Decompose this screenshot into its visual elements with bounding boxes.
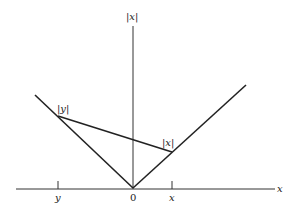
absolute-value-diagram: |x| x 0 y x |y| |x| [0,0,293,213]
origin-label: 0 [130,192,136,203]
point-label-abs-y: |y| [57,103,69,115]
abs-graph-left-branch [35,95,133,188]
y-axis-label: |x| [126,11,138,23]
tick-label-y: y [54,192,61,203]
point-label-abs-x: |x| [162,137,174,149]
x-axis-label: x [277,183,283,194]
abs-graph-right-branch [133,85,246,188]
tick-label-x: x [169,192,175,203]
